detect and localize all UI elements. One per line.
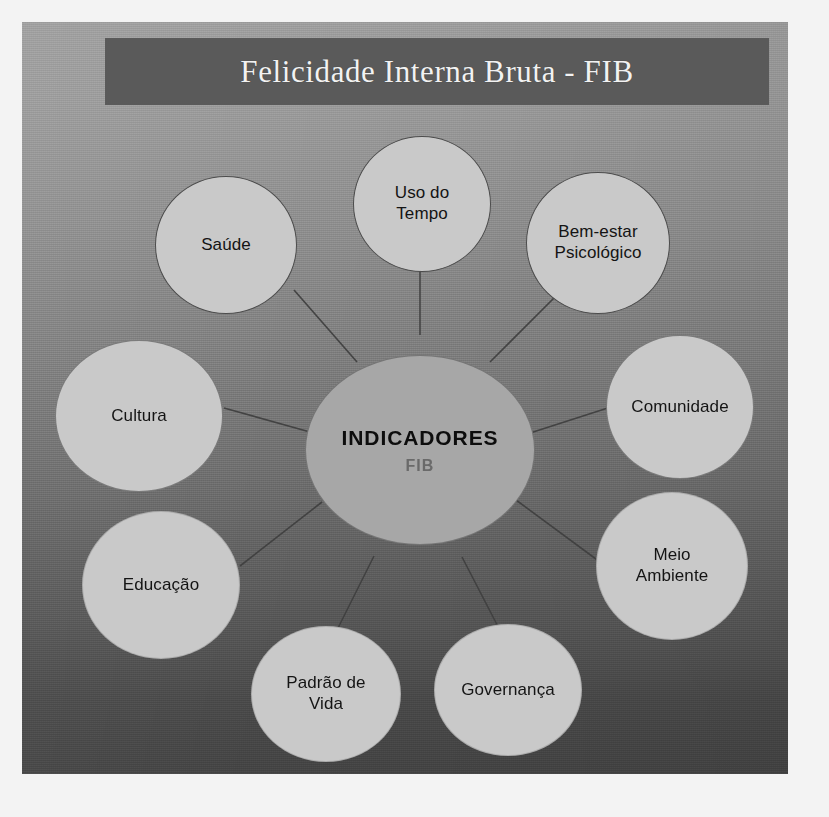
node-saude-label: Saúde <box>195 235 257 256</box>
node-governanca-label: Governança <box>455 680 561 701</box>
node-padrao-de-vida[interactable]: Padrão deVida <box>251 626 401 762</box>
connector-cultura <box>224 408 310 432</box>
node-governanca[interactable]: Governança <box>434 624 582 756</box>
node-uso-do-tempo[interactable]: Uso doTempo <box>353 136 491 272</box>
node-saude[interactable]: Saúde <box>155 176 297 314</box>
node-cultura[interactable]: Cultura <box>55 340 223 492</box>
node-educacao-label: Educação <box>117 575 205 596</box>
node-bem-estar-psicologico-label: Bem-estarPsicológico <box>548 222 647 263</box>
center-node-title: INDICADORES <box>342 426 499 450</box>
node-meio-ambiente[interactable]: MeioAmbiente <box>596 492 748 640</box>
slide: Felicidade Interna Bruta - FIB INDICADOR… <box>22 22 788 774</box>
connector-educacao <box>240 502 322 566</box>
center-node-indicadores[interactable]: INDICADORES FIB <box>305 355 535 545</box>
node-comunidade-label: Comunidade <box>625 397 734 418</box>
connector-bem-estar <box>490 290 562 362</box>
node-comunidade[interactable]: Comunidade <box>606 335 754 479</box>
node-padrao-de-vida-label: Padrão deVida <box>280 673 371 714</box>
page-canvas: Felicidade Interna Bruta - FIB INDICADOR… <box>0 0 829 817</box>
node-uso-do-tempo-label: Uso doTempo <box>389 183 455 224</box>
connector-saude <box>294 290 357 362</box>
node-bem-estar-psicologico[interactable]: Bem-estarPsicológico <box>526 172 670 314</box>
node-cultura-label: Cultura <box>105 406 173 427</box>
connector-comunidade <box>527 406 614 434</box>
center-node-subtitle: FIB <box>405 457 434 475</box>
node-educacao[interactable]: Educação <box>82 511 240 659</box>
connector-meio-ambiente <box>516 500 600 562</box>
node-meio-ambiente-label: MeioAmbiente <box>630 545 715 586</box>
title-banner: Felicidade Interna Bruta - FIB <box>105 38 769 105</box>
slide-title: Felicidade Interna Bruta - FIB <box>240 54 633 90</box>
